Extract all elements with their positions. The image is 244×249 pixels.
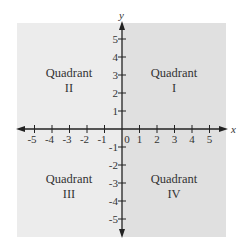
svg-text:-2: -2 — [80, 133, 89, 145]
quadrant-iv-numeral: IV — [167, 187, 180, 201]
quadrant-iv-label: Quadrant — [151, 172, 198, 186]
quadrant-iii-numeral: III — [63, 187, 76, 201]
svg-text:0: 0 — [124, 133, 130, 145]
svg-text:-2: -2 — [109, 159, 118, 171]
svg-text:-5: -5 — [109, 213, 119, 225]
svg-text:-4: -4 — [45, 133, 55, 145]
quadrant-iii-label: Quadrant — [46, 172, 93, 186]
x-axis-label: x — [230, 123, 236, 135]
svg-text:1: 1 — [113, 105, 119, 117]
svg-text:-5: -5 — [27, 133, 37, 145]
svg-text:1: 1 — [137, 133, 143, 145]
quadrant-i-numeral: I — [172, 81, 176, 95]
svg-text:-3: -3 — [62, 133, 72, 145]
svg-text:2: 2 — [113, 87, 119, 99]
svg-text:-4: -4 — [109, 195, 119, 207]
svg-text:3: 3 — [172, 133, 178, 145]
coordinate-plane: x y -5 -4 -3 -2 -1 0 1 2 3 4 5 — [0, 0, 244, 249]
svg-text:-1: -1 — [97, 133, 106, 145]
svg-text:-3: -3 — [109, 177, 119, 189]
svg-text:2: 2 — [154, 133, 160, 145]
svg-text:3: 3 — [113, 69, 119, 81]
svg-text:4: 4 — [189, 133, 195, 145]
svg-text:5: 5 — [207, 133, 213, 145]
svg-text:4: 4 — [113, 51, 119, 63]
quadrant-i-label: Quadrant — [151, 66, 198, 80]
quadrant-ii-label: Quadrant — [46, 66, 93, 80]
svg-text:5: 5 — [113, 33, 119, 45]
svg-text:-1: -1 — [109, 141, 118, 153]
quadrant-ii-numeral: II — [65, 81, 73, 95]
y-axis-label: y — [118, 9, 124, 21]
